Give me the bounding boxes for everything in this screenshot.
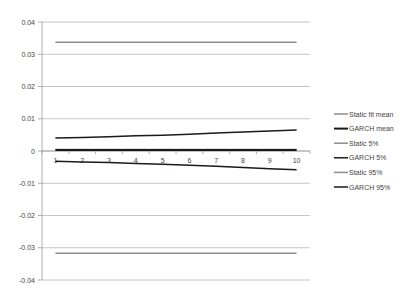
legend-label: Static 95%: [349, 169, 382, 176]
x-tick-label: 10: [293, 157, 301, 164]
x-tick-label: 8: [241, 157, 245, 164]
x-tick-label: 7: [214, 157, 218, 164]
legend-label: GARCH 95%: [349, 184, 390, 191]
legend-label: GARCH 5%: [349, 154, 386, 161]
legend-label: GARCH mean: [349, 125, 394, 132]
x-tick-label: 2: [80, 157, 84, 164]
x-tick-label: 5: [161, 157, 165, 164]
x-tick-label: 6: [187, 157, 191, 164]
y-tick-label: 0: [31, 148, 35, 155]
y-tick-label: -0.04: [19, 277, 35, 284]
series-line: [55, 161, 296, 169]
legend: Static fit meanGARCH meanStatic 5%GARCH …: [334, 111, 394, 191]
line-chart: 0.040.030.020.010-0.01-0.02-0.03-0.04 12…: [0, 0, 410, 296]
y-tick-label: -0.03: [19, 244, 35, 251]
y-tick-label: 0.01: [21, 115, 35, 122]
y-tick-label: 0.02: [21, 83, 35, 90]
y-tick-label: 0.04: [21, 19, 35, 26]
legend-label: Static 5%: [349, 140, 379, 147]
y-axis: 0.040.030.020.010-0.01-0.02-0.03-0.04: [19, 19, 42, 284]
legend-label: Static fit mean: [349, 111, 393, 118]
x-tick-label: 1: [53, 157, 57, 164]
series-lines: [55, 42, 296, 253]
x-tick-label: 9: [268, 157, 272, 164]
y-tick-label: -0.02: [19, 212, 35, 219]
series-line: [55, 130, 296, 138]
y-tick-label: 0.03: [21, 51, 35, 58]
y-tick-label: -0.01: [19, 180, 35, 187]
